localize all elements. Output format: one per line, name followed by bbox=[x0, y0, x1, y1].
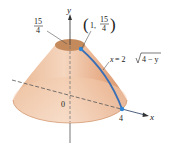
origin-label: 0 bbox=[61, 100, 65, 109]
curve-eq-lhs: x bbox=[109, 55, 114, 64]
x-axis-label: x bbox=[149, 112, 154, 122]
point-x-intercept bbox=[120, 107, 124, 111]
x-axis-visible bbox=[122, 109, 145, 115]
curve-eq-mid: = 2 bbox=[115, 55, 126, 64]
point-comma: , bbox=[94, 21, 96, 30]
y-axis-label: y bbox=[66, 5, 71, 15]
top-height-numerator: 15 bbox=[34, 17, 42, 26]
point-close-paren: ) bbox=[110, 15, 116, 34]
surface-of-revolution-diagram: y x 0 4 15 4 ( 1 , 15 4 ) x = 2 4 − y bbox=[0, 0, 175, 151]
point-y-denominator: 4 bbox=[102, 24, 106, 33]
leader-curve bbox=[103, 62, 109, 70]
x-axis-arrow-icon bbox=[143, 113, 150, 118]
point-y-numerator: 15 bbox=[100, 15, 108, 24]
x-intercept-label: 4 bbox=[119, 114, 123, 123]
point-open-paren: ( bbox=[83, 15, 89, 34]
top-height-denominator: 4 bbox=[36, 26, 40, 35]
curve-eq-radicand: 4 − y bbox=[142, 55, 159, 64]
